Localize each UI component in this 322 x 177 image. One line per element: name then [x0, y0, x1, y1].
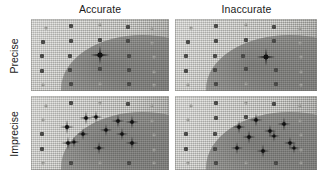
grid-dot	[40, 69, 44, 73]
grid-dot	[245, 82, 248, 85]
grid-dot	[213, 147, 217, 151]
panel-accurate-imprecise	[31, 96, 169, 170]
grid-dot	[99, 101, 102, 104]
grid-dot	[300, 134, 303, 137]
panel-inaccurate-precise	[175, 19, 317, 91]
grid-dot	[274, 161, 278, 165]
grid-dot	[272, 25, 276, 29]
grid-dot	[98, 67, 102, 71]
grid-dot	[214, 161, 218, 165]
grid-dot	[127, 54, 131, 58]
grid-dot	[213, 68, 217, 72]
grid-dot	[152, 134, 155, 137]
grid-dot	[151, 42, 154, 45]
grid-dot	[186, 162, 189, 165]
grid-dot	[40, 147, 44, 151]
grid-dot	[189, 27, 192, 30]
grid-dot	[300, 56, 303, 59]
grid-dot	[184, 147, 188, 151]
grid-dot	[69, 82, 73, 86]
grid-dot	[241, 54, 245, 58]
grid-dot	[42, 162, 45, 165]
grid-dot	[300, 83, 303, 86]
grid-dot	[274, 68, 278, 72]
grid-dot	[99, 82, 102, 85]
column-label-accurate: Accurate	[30, 3, 170, 15]
grid-dot	[298, 105, 301, 108]
grid-dot	[213, 54, 217, 58]
grid-dot	[40, 54, 44, 58]
grid-dot	[69, 24, 73, 28]
grid-dot	[300, 70, 303, 73]
grid-dot	[42, 83, 45, 86]
grid-dot	[244, 38, 248, 42]
grid-dot	[214, 82, 218, 86]
grid-dot	[126, 102, 130, 106]
grid-dot	[152, 83, 155, 86]
grid-dot	[126, 39, 130, 43]
grid-dot	[151, 120, 154, 123]
grid-dot	[69, 101, 73, 105]
grid-dot	[69, 161, 73, 165]
grid-dot	[45, 27, 48, 30]
grid-dot	[152, 149, 155, 152]
grid-dot	[300, 162, 303, 165]
grid-dot	[272, 39, 276, 43]
grid-dot	[213, 132, 217, 136]
grid-dot	[298, 120, 301, 123]
grid-dot	[45, 104, 48, 107]
accuracy-precision-figure: Accurate Inaccurate Precise Imprecise	[0, 0, 322, 177]
grid-dot	[42, 118, 45, 121]
grid-dot	[99, 24, 102, 27]
grid-dot	[68, 54, 72, 58]
grid-dot	[298, 28, 301, 31]
grid-dot	[245, 161, 248, 164]
grid-dot	[68, 68, 72, 72]
grid-dot	[184, 54, 188, 58]
grid-dot	[244, 115, 248, 119]
grid-dot	[151, 28, 154, 31]
grid-dot	[41, 40, 45, 44]
grid-dot	[274, 82, 278, 86]
grid-dot	[40, 132, 44, 136]
grid-dot	[151, 105, 154, 108]
grid-dot	[127, 68, 131, 72]
grid-dot	[186, 83, 189, 86]
grid-dot	[184, 132, 188, 136]
grid-dot	[214, 116, 218, 120]
column-label-inaccurate: Inaccurate	[174, 3, 319, 15]
grid-dot	[214, 39, 218, 43]
grid-dot	[127, 161, 131, 165]
grid-dot	[186, 118, 189, 121]
grid-dot	[272, 102, 276, 106]
grid-dot	[214, 101, 218, 105]
grid-dot	[244, 67, 248, 71]
grid-dot	[152, 56, 155, 59]
grid-dot	[245, 101, 248, 104]
grid-dot	[189, 104, 192, 107]
grid-dot	[186, 40, 190, 44]
grid-dot	[126, 25, 130, 29]
grid-dot	[298, 42, 301, 45]
panel-accurate-precise	[31, 19, 169, 91]
grid-dot	[152, 70, 155, 73]
grid-dot	[69, 39, 73, 43]
panel-inaccurate-imprecise	[175, 96, 317, 170]
grid-dot	[98, 38, 102, 42]
grid-dot	[184, 69, 188, 73]
grid-dot	[245, 24, 248, 27]
grid-dot	[152, 162, 155, 165]
grid-dot	[214, 24, 218, 28]
grid-dot	[127, 82, 131, 86]
grid-dot	[99, 161, 102, 164]
grid-dot	[300, 149, 303, 152]
